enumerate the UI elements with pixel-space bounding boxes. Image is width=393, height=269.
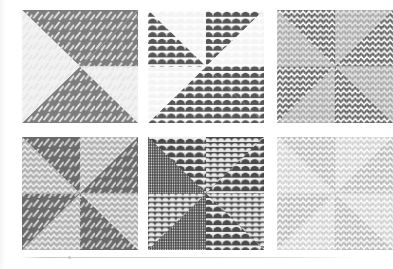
panel-grid xyxy=(22,10,376,250)
panel-3-canvas xyxy=(277,10,393,123)
pattern-panel-2 xyxy=(148,10,264,123)
pattern-panel-4 xyxy=(22,137,138,250)
panel-1-canvas xyxy=(22,10,138,123)
pattern-panel-3 xyxy=(277,10,393,123)
pattern-panel-6 xyxy=(277,137,393,250)
page-edge-shadow xyxy=(0,0,6,269)
panel-2-canvas xyxy=(148,10,264,123)
panel-4-canvas xyxy=(22,137,138,250)
panel-6-canvas xyxy=(277,137,393,250)
divider-tick-marker xyxy=(68,256,71,259)
pattern-panel-1 xyxy=(22,10,138,123)
panel-5-canvas xyxy=(148,137,264,250)
pattern-panel-5 xyxy=(148,137,264,250)
